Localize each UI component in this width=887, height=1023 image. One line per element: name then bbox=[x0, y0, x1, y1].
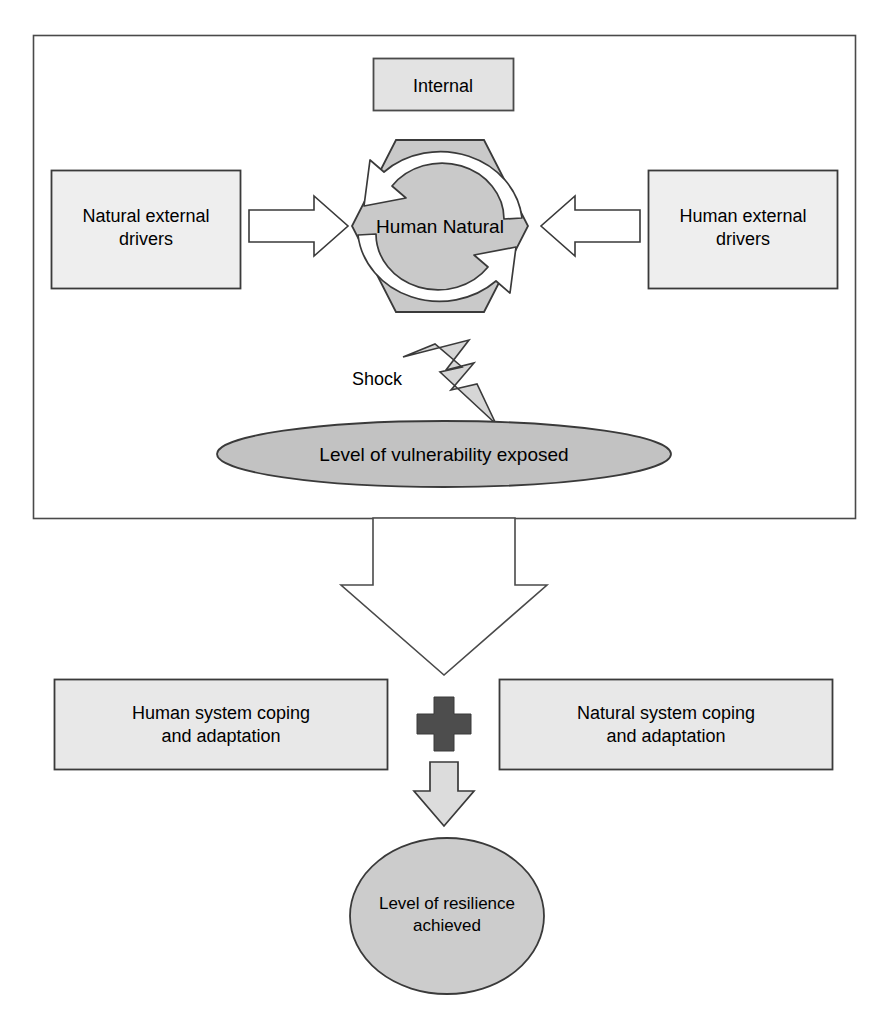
human-coping-box bbox=[55, 680, 388, 770]
diagram-graphics bbox=[0, 0, 887, 1023]
natural-external-drivers-box bbox=[52, 171, 241, 289]
plus-cross-icon bbox=[417, 697, 471, 751]
diagram-canvas: Internal Natural external drivers Human … bbox=[0, 0, 887, 1023]
natural-coping-box bbox=[500, 680, 833, 770]
human-external-drivers-box bbox=[649, 171, 838, 289]
internal-box bbox=[374, 59, 514, 111]
vulnerability-ellipse bbox=[217, 421, 671, 487]
coping-to-resilience-arrow-icon bbox=[414, 762, 474, 826]
system-to-coping-arrow-icon bbox=[341, 518, 547, 675]
resilience-ellipse bbox=[350, 838, 544, 994]
